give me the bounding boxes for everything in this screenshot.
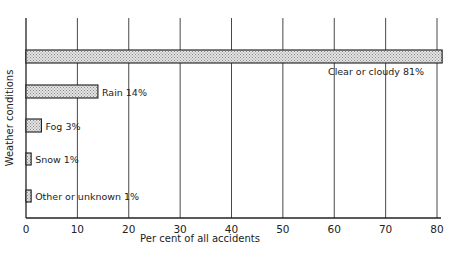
- vertical-gridlines: [26, 18, 437, 218]
- bar-rain: [26, 85, 98, 98]
- x-tick-label: 20: [122, 223, 135, 235]
- bar-other-or-unknown: [26, 190, 31, 202]
- y-axis-title: Weather conditions: [4, 70, 15, 167]
- bar-annotation: Other or unknown 1%: [35, 191, 139, 202]
- x-tick-label: 60: [328, 223, 341, 235]
- bar-annotation: Fog 3%: [45, 121, 80, 132]
- x-tick-label: 80: [430, 223, 443, 235]
- x-tick-label: 0: [23, 223, 30, 235]
- bar-annotation: Snow 1%: [35, 154, 79, 165]
- bar-snow: [26, 153, 31, 165]
- bar-annotation: Clear or cloudy 81%: [328, 66, 424, 77]
- bars: Clear or cloudy 81%Rain 14%Fog 3%Snow 1%…: [26, 50, 442, 202]
- bar-annotation: Rain 14%: [102, 87, 147, 98]
- x-tick-label: 50: [276, 223, 289, 235]
- bar-fog: [26, 119, 41, 132]
- bar-clear-or-cloudy: [26, 50, 442, 63]
- weather-accidents-bar-chart: Clear or cloudy 81%Rain 14%Fog 3%Snow 1%…: [0, 0, 459, 257]
- x-axis-title: Per cent of all accidents: [140, 233, 260, 244]
- x-tick-label: 10: [71, 223, 84, 235]
- x-tick-label: 70: [379, 223, 392, 235]
